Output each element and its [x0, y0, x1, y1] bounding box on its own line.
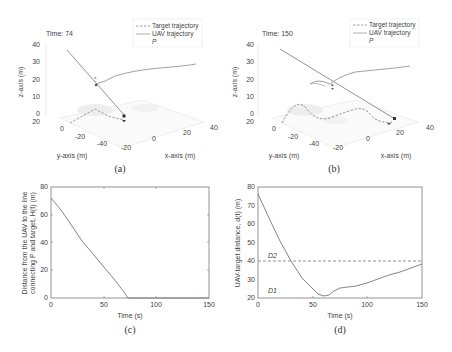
x-axis-label-c: Time (s)	[117, 312, 142, 320]
svg-text:30: 30	[32, 58, 40, 65]
caption-b: (b)	[328, 163, 340, 175]
svg-text:40: 40	[32, 41, 40, 48]
svg-text:P: P	[369, 37, 374, 44]
plot-area-c	[51, 187, 209, 298]
caption-a: (a)	[114, 163, 125, 175]
svg-text:20: 20	[396, 129, 404, 136]
d1-label: D1	[268, 287, 277, 294]
svg-text:80: 80	[247, 183, 255, 190]
svg-text:100: 100	[150, 301, 162, 308]
svg-text:30: 30	[247, 276, 255, 283]
svg-text:20: 20	[246, 76, 254, 83]
svg-text:70: 70	[247, 202, 255, 209]
x-axis-label-d: Time (s)	[327, 312, 352, 320]
panel-c: 0 20 40 60 80 0 50 100 150 Time (s) Dist…	[21, 183, 215, 336]
y-axis-label-a: y-axis (m)	[57, 152, 88, 160]
caption-d: (d)	[334, 324, 346, 336]
svg-text:40: 40	[246, 41, 254, 48]
svg-text:P: P	[152, 38, 157, 45]
svg-text:0: 0	[49, 301, 53, 308]
x-axis-label-a: x-axis (m)	[165, 152, 196, 160]
time-annotation-b: Time: 150	[262, 30, 293, 37]
svg-text:20: 20	[246, 118, 254, 125]
svg-text:Target trajectory: Target trajectory	[152, 22, 199, 30]
svg-text:150: 150	[416, 301, 428, 308]
svg-text:50: 50	[100, 301, 108, 308]
legend-a: Target trajectory UAV trajectory P	[133, 19, 202, 47]
svg-text:20: 20	[40, 266, 48, 273]
svg-text:60: 60	[247, 220, 255, 227]
svg-text:10: 10	[246, 93, 254, 100]
svg-text:50: 50	[247, 239, 255, 246]
svg-text:150: 150	[203, 301, 215, 308]
svg-text:20: 20	[247, 294, 255, 301]
svg-text:10: 10	[32, 93, 40, 100]
svg-text:20: 20	[32, 76, 40, 83]
svg-text:-20: -20	[333, 144, 343, 151]
panel-d: 20 30 40 50 60 70 80 0 50 100 150 Time (…	[234, 183, 428, 336]
svg-text:-40: -40	[97, 140, 107, 147]
svg-text:40: 40	[40, 239, 48, 246]
y-axis-label-c-line1: Distance from the UAV to the line	[21, 191, 28, 294]
svg-text:20: 20	[183, 129, 191, 136]
svg-text:Target trajectory: Target trajectory	[369, 21, 416, 29]
panel-b: Time: 150 0 10 20 30 40 z-axis (m) 20 0 …	[231, 19, 434, 175]
svg-text:60: 60	[40, 211, 48, 218]
y-axis-label-d: UAV-target distance, d(t) (m)	[234, 199, 242, 288]
svg-text:0: 0	[250, 110, 254, 117]
svg-text:0: 0	[366, 135, 370, 142]
time-annotation-a: Time: 74	[46, 30, 73, 37]
plot-area-d	[258, 187, 422, 298]
panel-a: Time: 74 0 10 20 30 40 z-axis (m) 20 0 -…	[17, 19, 218, 175]
z-ticks-a: 0 10 20 30 40	[32, 41, 40, 117]
y-axis-label-c-line2: connecting P and target, H(t) (m)	[29, 192, 37, 294]
x-axis-label-b: x-axis (m)	[381, 152, 412, 160]
svg-text:50: 50	[309, 301, 317, 308]
svg-text:UAV trajectory: UAV trajectory	[369, 29, 411, 37]
z-axis-label-a: z-axis (m)	[17, 67, 25, 98]
svg-text:0: 0	[152, 135, 156, 142]
y-ticks-d: 20 30 40 50 60 70 80	[247, 183, 255, 301]
caption-c: (c)	[124, 324, 135, 336]
svg-text:-20: -20	[75, 133, 85, 140]
z-axis-label-b: z-axis (m)	[231, 67, 239, 98]
z-ticks-b: 0 10 20 30 40	[246, 41, 254, 117]
legend-b: Target trajectory UAV trajectory P	[350, 19, 419, 47]
svg-text:40: 40	[426, 124, 434, 131]
svg-text:40: 40	[247, 257, 255, 264]
svg-text:-40: -40	[309, 140, 319, 147]
svg-text:-20: -20	[121, 144, 131, 151]
svg-text:20: 20	[32, 118, 40, 125]
svg-text:0: 0	[60, 125, 64, 132]
d2-label: D2	[268, 252, 277, 259]
uav-trajectory-a	[96, 64, 196, 84]
svg-text:UAV trajectory: UAV trajectory	[152, 30, 194, 38]
svg-text:0: 0	[44, 294, 48, 301]
y-axis-label-b: y-axis (m)	[269, 152, 300, 160]
svg-text:0: 0	[36, 110, 40, 117]
svg-text:30: 30	[246, 58, 254, 65]
svg-text:80: 80	[40, 183, 48, 190]
svg-text:100: 100	[361, 301, 373, 308]
figure-canvas: Time: 74 0 10 20 30 40 z-axis (m) 20 0 -…	[0, 0, 452, 352]
svg-text:-20: -20	[288, 133, 298, 140]
svg-text:40: 40	[210, 124, 218, 131]
uav-trajectory-b	[310, 66, 410, 84]
svg-text:0: 0	[256, 301, 260, 308]
svg-text:0: 0	[272, 125, 276, 132]
